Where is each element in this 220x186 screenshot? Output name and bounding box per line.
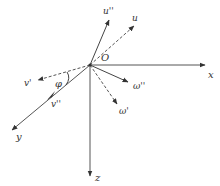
v-double-prime-label: v''	[51, 99, 61, 109]
x-axis-label: x	[208, 69, 214, 80]
u-label: u	[132, 13, 138, 23]
u-line	[90, 26, 134, 65]
v-prime-line	[38, 65, 90, 80]
u-double-prime-label: u''	[103, 6, 114, 16]
phi-label: φ	[55, 78, 62, 89]
omega-prime-vector: ω'	[90, 65, 129, 116]
omega-double-prime-label: ω''	[133, 81, 145, 91]
u-vector: u	[90, 13, 138, 65]
v-prime-label: v'	[24, 78, 32, 88]
omega-double-prime-vector: ω''	[90, 65, 145, 91]
z-axis: z	[90, 65, 101, 183]
omega-prime-label: ω'	[119, 106, 129, 116]
y-axis-label: y	[15, 131, 22, 142]
phi-angle: φ	[55, 72, 69, 89]
origin: O	[88, 52, 109, 67]
origin-label: O	[101, 52, 109, 63]
x-axis: x	[90, 65, 214, 80]
origin-dot-icon	[88, 63, 91, 66]
coordinate-frame-diagram: x z y v'' v' φ u'' u ω'' ω'	[0, 0, 220, 186]
z-axis-label: z	[94, 172, 101, 183]
